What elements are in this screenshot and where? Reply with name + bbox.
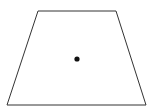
diagram-canvas [0,0,155,111]
center-point [74,56,79,61]
